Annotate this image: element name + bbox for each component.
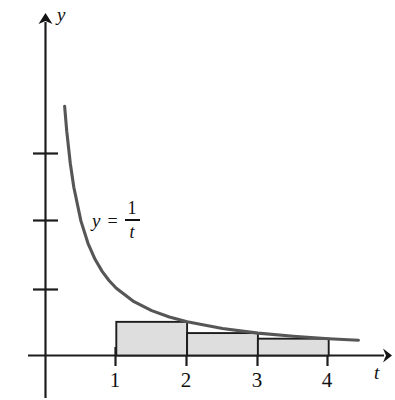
fraction-denominator: t [130,222,135,241]
riemann-rect-3 [258,339,329,356]
figure-container: y t y = 1 t 1 2 3 4 [0,0,395,400]
riemann-rect-2 [187,333,258,355]
curve-equation-label: y = 1 t [92,200,140,242]
x-tick-label-1: 1 [102,370,128,391]
fraction-numerator: 1 [128,199,137,218]
x-axis-label: t [374,363,379,382]
riemann-rect-1 [116,322,187,356]
y-axis-label: y [57,5,65,24]
equation-fraction: 1 t [125,199,140,241]
x-tick-label-2: 2 [173,370,199,391]
figure-canvas [0,0,395,400]
fraction-bar [125,219,140,221]
x-tick-label-3: 3 [244,370,270,391]
x-tick-label-4: 4 [314,370,340,391]
x-axis-arrow-icon [383,349,392,363]
equation-operator: = [106,212,118,230]
equation-lhs: y [92,211,100,230]
